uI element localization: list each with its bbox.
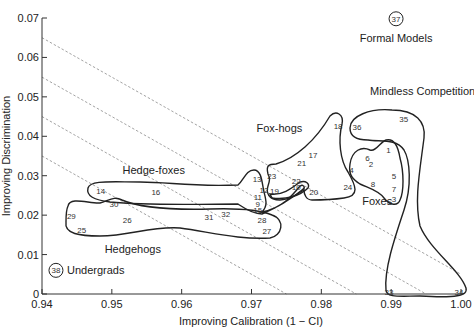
- point-label: 23: [267, 172, 276, 181]
- point-label: 16: [151, 188, 160, 197]
- point-label: 7: [392, 185, 397, 194]
- point-label: 13: [253, 175, 262, 184]
- iso-lines: [42, 38, 461, 294]
- group-outlines: [66, 110, 466, 297]
- point-label: 21: [297, 159, 306, 168]
- point-label: 19: [270, 187, 279, 196]
- special-point-label: Undergrads: [67, 264, 125, 276]
- y-tick-label: 0.04: [18, 130, 39, 142]
- iso-line: [42, 38, 461, 275]
- special-point-label: Formal Models: [360, 32, 433, 44]
- y-tick-label: 0.02: [18, 209, 39, 221]
- point-label: 24: [343, 183, 352, 192]
- point-label: 32: [221, 210, 230, 219]
- x-tick-label: 0.99: [380, 298, 401, 310]
- x-axis-title: Improving Calibration (1 − CI): [179, 315, 323, 327]
- point-label: 22: [292, 177, 301, 186]
- point-label: 15: [253, 206, 262, 215]
- y-tick-label: 0.05: [18, 91, 39, 103]
- point-label: 3: [392, 195, 397, 204]
- point-label: 27: [262, 227, 271, 236]
- point-label: 26: [123, 216, 132, 225]
- point-label: 8: [371, 180, 376, 189]
- point-label: 17: [309, 151, 318, 160]
- x-tick-label: 0.95: [101, 298, 122, 310]
- x-tick-label: 0.97: [241, 298, 262, 310]
- point-label: 4: [349, 166, 354, 175]
- point-label: 20: [309, 188, 318, 197]
- y-tick-label: 0.07: [18, 12, 39, 24]
- group-label-fox-hogs: Fox-hogs: [257, 122, 303, 134]
- scatter-chart: 0.940.950.960.970.980.991.0000.010.020.0…: [0, 0, 474, 334]
- point-label: 31: [204, 213, 213, 222]
- y-tick-label: 0.06: [18, 51, 39, 63]
- y-axis-title: Improving Discrimination: [0, 96, 12, 216]
- point-label: 18: [334, 122, 343, 131]
- point-label: 36: [352, 123, 361, 132]
- point-label: 6: [365, 154, 370, 163]
- point-label: 29: [67, 212, 76, 221]
- point-label: 14: [96, 187, 105, 196]
- x-tick-label: 0.96: [171, 298, 192, 310]
- y-tick-label: 0.03: [18, 170, 39, 182]
- group-label-foxes: Foxes: [362, 195, 392, 207]
- point-label: 1: [386, 146, 391, 155]
- y-tick-label: 0: [33, 288, 39, 300]
- point-label: 37: [392, 15, 401, 24]
- y-tick-label: 0.01: [18, 249, 39, 261]
- point-label: 5: [392, 172, 397, 181]
- x-tick-label: 1.00: [450, 298, 471, 310]
- group-label-hedge-foxes: Hedge-foxes: [123, 164, 186, 176]
- point-label: 28: [258, 216, 267, 225]
- x-tick-label: 0.98: [311, 298, 332, 310]
- point-label: 30: [109, 200, 118, 209]
- point-label: 33: [385, 288, 394, 297]
- point-label: 35: [399, 115, 408, 124]
- point-label: 34: [454, 288, 463, 297]
- point-label: 12: [260, 186, 269, 195]
- group-label-mindless-competition: Mindless Competition: [370, 85, 474, 97]
- point-label: 25: [77, 226, 86, 235]
- group-label-hedgehogs: Hedgehogs: [105, 243, 162, 255]
- point-label: 38: [52, 266, 61, 275]
